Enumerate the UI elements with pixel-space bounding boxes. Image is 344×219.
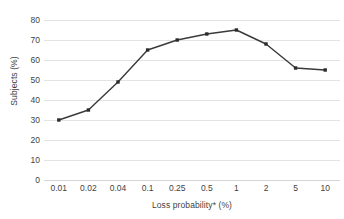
- y-axis-tick-label: 30: [14, 115, 40, 125]
- data-point-marker: 10: 55: [324, 68, 327, 71]
- y-axis-tick-label: 70: [14, 35, 40, 45]
- data-point-marker: 0.25: 70: [176, 38, 179, 41]
- series-line: [59, 30, 325, 120]
- y-axis-tick-label: 60: [14, 55, 40, 65]
- data-point-marker: 0.1: 65: [146, 48, 149, 51]
- y-axis-tick-label: 20: [14, 135, 40, 145]
- x-axis-tick-label: 10: [303, 183, 344, 193]
- plot-area: 0.01: 300.02: 350.04: 490.1: 650.25: 700…: [44, 20, 340, 180]
- x-axis-title: Loss probability* (%): [44, 200, 340, 210]
- data-point-marker: 0.5: 73: [205, 32, 208, 35]
- gridline: [44, 180, 340, 181]
- y-axis-tick-label: 40: [14, 95, 40, 105]
- x-axis-tick-labels: 0.010.020.040.10.250.512510: [44, 183, 340, 199]
- data-point-marker: 0.01: 30: [57, 118, 60, 121]
- chart-container: Subjects (%) 80706050403020100 0.01: 300…: [0, 0, 344, 219]
- data-point-marker: 0.04: 49: [116, 80, 119, 83]
- y-axis-tick-label: 80: [14, 15, 40, 25]
- data-point-marker: 0.02: 35: [87, 108, 90, 111]
- line-series: 0.01: 300.02: 350.04: 490.1: 650.25: 700…: [44, 20, 340, 180]
- data-point-marker: 1: 75: [235, 28, 238, 31]
- y-axis-tick-label: 50: [14, 75, 40, 85]
- data-point-marker: 5: 56: [294, 66, 297, 69]
- data-point-marker: 2: 68: [264, 42, 267, 45]
- y-axis-tick-label: 10: [14, 155, 40, 165]
